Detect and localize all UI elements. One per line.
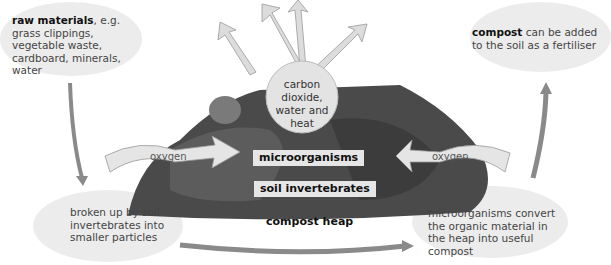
soil-invertebrates-label: soil invertebrates — [254, 181, 376, 197]
products-text: carbon dioxide, water and heat — [266, 78, 338, 130]
raw-materials-text: raw materials, e.g. grass clippings, veg… — [12, 14, 130, 77]
convert-text: microorganisms convert the organic mater… — [428, 207, 558, 257]
heap-title: compost heap — [266, 215, 353, 228]
microorganisms-label: microorganisms — [253, 150, 364, 166]
raw-materials-bold: raw materials — [12, 14, 94, 26]
compost-use-bold: compost — [472, 26, 522, 38]
compost-use-text: compost can be added to the soil as a fe… — [472, 26, 600, 51]
oxygen-right-label: oxygen — [432, 151, 468, 162]
oxygen-left-label: oxygen — [150, 151, 186, 162]
broken-up-text: broken up by soil invertebrates into sma… — [70, 206, 170, 244]
